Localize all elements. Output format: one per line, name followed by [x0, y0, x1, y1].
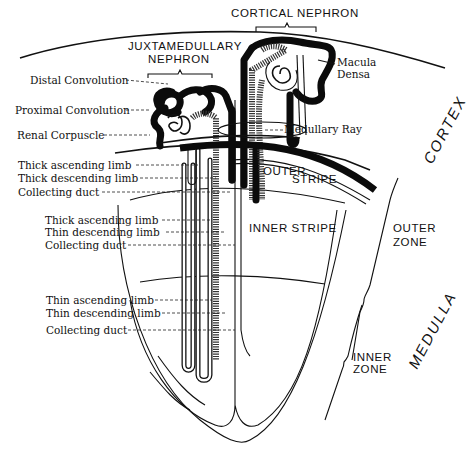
label-inner-thin-descending: Thin descending limb: [45, 226, 160, 238]
inner-stripe-inner-zone-boundary: [140, 276, 325, 284]
juxtamedullary-brace: [148, 70, 212, 78]
label-inner-thick-ascending: Thick ascending limb: [45, 214, 159, 226]
label-zone-thin-descending: Thin descending limb: [46, 307, 161, 319]
label-zone-collecting-duct: Collecting duct: [46, 324, 128, 336]
label-proximal-convolution: Proximal Convolution: [15, 104, 130, 116]
region-inner-zone-line2: ZONE: [353, 363, 387, 375]
outer-inner-stripe-boundary: [130, 188, 345, 203]
region-outer-zone-line2: ZONE: [393, 236, 427, 248]
cortical-brace: [256, 23, 316, 32]
region-medulla: MEDULLA: [405, 289, 460, 372]
label-inner-collecting-duct: Collecting duct: [45, 239, 127, 251]
region-inner-stripe: INNER STRIPE: [249, 222, 337, 234]
region-cortex: CORTEX: [420, 93, 470, 167]
label-macula-line2: Densa: [337, 68, 370, 80]
label-zone-thin-ascending: Thin ascending limb: [46, 294, 154, 306]
cortical-nephron-title: CORTICAL NEPHRON: [231, 7, 359, 19]
pyramid-outline-outer: [118, 205, 346, 442]
label-outer-collecting-duct: Collecting duct: [18, 186, 100, 198]
label-medullary-ray: Medullary Ray: [284, 123, 362, 135]
juxtamedullary-title-line1: JUXTAMEDULLARY: [128, 40, 242, 52]
label-outer-thick-ascending: Thick ascending limb: [18, 159, 132, 171]
region-outer-zone-line1: OUTER: [393, 222, 436, 234]
diagram-canvas: CORTICAL NEPHRON JUXTAMEDULLARY NEPHRON …: [0, 0, 473, 461]
outer-zone-brace: [352, 178, 398, 360]
label-distal-convolution: Distal Convolution: [30, 74, 129, 86]
region-outer-stripe-line2: STRIPE: [292, 173, 337, 185]
nephron-diagram: CORTICAL NEPHRON JUXTAMEDULLARY NEPHRON …: [0, 0, 473, 461]
leader-distal-convolution: [126, 80, 168, 84]
label-renal-corpuscle: Renal Corpuscle: [17, 129, 105, 141]
region-inner-zone-line1: INNER: [353, 351, 392, 363]
label-macula-line1: Macula: [337, 56, 376, 68]
juxtamedullary-title-line2: NEPHRON: [148, 53, 210, 65]
label-outer-thick-descending: Thick descending limb: [18, 172, 138, 184]
pyramid-outline-inner: [130, 210, 337, 426]
